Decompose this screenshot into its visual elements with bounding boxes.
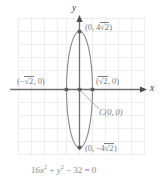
x-axis-arrowhead — [140, 86, 147, 92]
y-axis — [76, 15, 82, 150]
label-right-covertex-radical: √2 — [98, 76, 108, 86]
point-right-covertex — [90, 87, 94, 91]
label-top-vertex-close: ) — [109, 22, 112, 32]
equation-caption: 16x2 + y2 − 32 = 0 — [31, 166, 96, 175]
point-center — [77, 87, 81, 91]
center-leader-line — [81, 91, 100, 110]
label-bottom-vertex-close: ) — [114, 143, 117, 153]
label-bottom-vertex: (0, −4√2) — [85, 143, 117, 153]
point-bottom-vertex — [77, 145, 81, 149]
label-top-vertex-open: (0, 4 — [85, 22, 100, 32]
grid — [18, 18, 145, 155]
label-bottom-vertex-open: (0, −4 — [85, 143, 105, 153]
label-center: C(0, 0) — [99, 108, 122, 117]
label-left-covertex-radical: √2 — [24, 76, 34, 86]
label-top-vertex-radical: √2 — [100, 22, 110, 32]
point-top-vertex — [77, 29, 81, 33]
label-right-covertex: (√2, 0) — [96, 76, 119, 86]
label-top-vertex: (0, 4√2) — [85, 22, 112, 32]
y-axis-label: y — [72, 4, 76, 14]
graph-canvas — [0, 0, 161, 183]
point-left-covertex — [64, 87, 68, 91]
label-bottom-vertex-radical: √2 — [104, 143, 114, 153]
label-right-covertex-close: , 0) — [108, 76, 119, 86]
label-left-covertex: (−√2, 0) — [17, 76, 45, 86]
label-left-covertex-close: , 0) — [34, 76, 45, 86]
equation-tail: − 32 = 0 — [64, 165, 97, 175]
equation-term-a: 16x — [31, 165, 44, 175]
equation-plus: + — [47, 165, 57, 175]
conic-section-figure: y x (0, 4√2) (−√2, 0) (√2, 0) C(0, 0) (0… — [0, 0, 161, 183]
x-axis-label: x — [150, 84, 154, 94]
